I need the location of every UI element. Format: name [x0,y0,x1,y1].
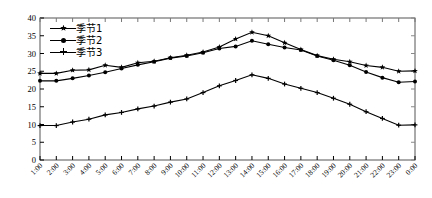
x-axis-tick-label: 22:00 [368,161,387,180]
x-axis-tick-label: 14:00 [238,161,257,180]
series-line-3 [38,72,418,128]
x-axis-tick-label: 2:00 [45,161,61,177]
y-axis-tick-label: 30 [28,49,37,59]
x-axis-tick-label: 23:00 [385,161,404,180]
x-axis-tick-label: 8:00 [143,161,159,177]
y-axis-tick-label: 40 [28,13,37,23]
x-axis-tick-label: 16:00 [271,161,290,180]
chart-plot-area: 05101520253035401:002:003:004:005:006:00… [0,0,432,198]
series-line-1 [37,29,418,76]
x-axis-tick-label: 10:00 [173,161,192,180]
series-line-2 [38,39,417,85]
y-axis-tick-label: 25 [28,66,37,76]
x-axis-tick-label: 4:00 [78,161,94,177]
y-axis-tick-label: 15 [28,102,37,112]
x-axis-tick-label: 13:00 [222,161,241,180]
x-axis-tick-label: 20:00 [336,161,355,180]
plot-frame [40,18,415,160]
x-axis-tick-label: 6:00 [110,161,126,177]
x-axis-tick-label: 0:00 [404,161,420,177]
x-axis-tick-label: 9:00 [159,161,175,177]
x-axis-tick-label: 18:00 [303,161,322,180]
x-axis-tick-label: 17:00 [287,161,306,180]
x-axis-tick-label: 3:00 [61,161,77,177]
x-axis-tick-label: 19:00 [319,161,338,180]
x-axis-tick-label: 7:00 [126,161,142,177]
y-axis-tick-label: 10 [28,120,37,130]
y-axis-tick-label: 5 [32,137,36,147]
line-chart: 05101520253035401:002:003:004:005:006:00… [0,0,432,198]
x-axis-tick-label: 21:00 [352,161,371,180]
x-axis-tick-label: 11:00 [189,161,207,179]
x-axis-tick-label: 15:00 [254,161,273,180]
x-axis-tick-label: 5:00 [94,161,110,177]
y-axis-tick-label: 20 [28,84,37,94]
y-axis-tick-label: 35 [28,31,37,41]
x-axis-tick-label: 12:00 [205,161,224,180]
